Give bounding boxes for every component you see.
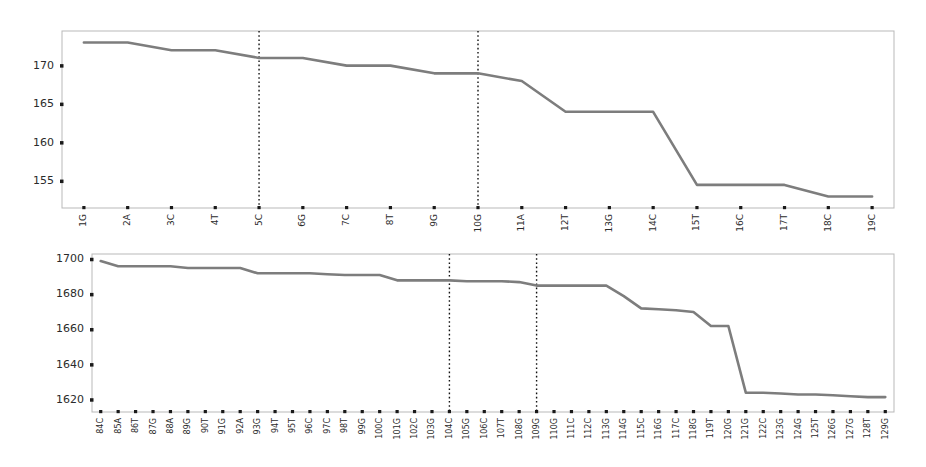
x-tick-label: 106C [480, 418, 489, 439]
y-tick-mark [90, 363, 94, 367]
x-tick-mark [827, 206, 830, 209]
x-tick-label: 91G [218, 418, 227, 434]
x-tick-label: 123G [776, 418, 785, 439]
x-tick-mark [82, 206, 85, 209]
y-tick-mark [60, 64, 64, 68]
x-tick-mark [831, 410, 834, 413]
x-tick-label: 113G [602, 418, 611, 439]
x-tick-label: 7C [341, 214, 351, 226]
x-tick-label: 101G [393, 418, 402, 439]
x-tick-mark [378, 410, 381, 413]
x-tick-mark [301, 206, 304, 209]
x-tick-label: 5C [254, 214, 264, 226]
chart-panel-top: 1551601651701G2A3C4T5C6G7C8T9G10G11A12T1… [0, 0, 926, 234]
x-tick-mark [814, 410, 817, 413]
x-tick-mark [186, 410, 189, 413]
x-tick-label: 125T [811, 418, 820, 438]
y-tick-label: 1660 [56, 322, 84, 335]
x-tick-mark [674, 410, 677, 413]
x-tick-label: 115C [637, 418, 646, 439]
x-tick-mark [99, 410, 102, 413]
y-tick-label: 165 [33, 97, 54, 110]
x-tick-label: 96C [305, 418, 314, 434]
x-tick-mark [783, 206, 786, 209]
x-tick-label: 1G [78, 214, 88, 227]
x-tick-mark [657, 410, 660, 413]
x-tick-mark [552, 410, 555, 413]
x-tick-mark [587, 410, 590, 413]
x-tick-label: 18C [823, 214, 833, 232]
x-tick-label: 111C [567, 418, 576, 439]
x-tick-label: 102C [410, 418, 419, 439]
x-tick-label: 16C [735, 214, 745, 232]
x-tick-label: 89G [183, 418, 192, 434]
x-tick-mark [692, 410, 695, 413]
x-tick-label: 2A [122, 213, 132, 226]
x-tick-label: 121G [741, 418, 750, 439]
x-tick-mark [797, 410, 800, 413]
x-tick-mark [326, 410, 329, 413]
x-tick-mark [343, 410, 346, 413]
x-tick-label: 127G [846, 418, 855, 439]
y-tick-label: 155 [33, 174, 54, 187]
x-tick-mark [134, 410, 137, 413]
x-tick-mark [389, 206, 392, 209]
x-tick-label: 105G [462, 418, 471, 439]
x-tick-label: 94T [271, 418, 280, 433]
y-tick-mark [90, 258, 94, 262]
x-tick-mark [744, 410, 747, 413]
x-tick-mark [608, 206, 611, 209]
x-tick-mark [652, 206, 655, 209]
x-tick-label: 14C [648, 214, 658, 232]
y-tick-mark [60, 141, 64, 145]
x-tick-label: 98T [340, 418, 349, 433]
x-tick-mark [256, 410, 259, 413]
x-tick-mark [500, 410, 503, 413]
x-tick-label: 13G [604, 214, 614, 232]
x-tick-label: 11A [516, 213, 526, 231]
x-tick-mark [170, 206, 173, 209]
x-tick-label: 87G [149, 418, 158, 434]
x-tick-label: 6G [297, 214, 307, 227]
x-tick-label: 92A [236, 417, 245, 433]
x-tick-label: 4T [210, 214, 220, 226]
x-tick-mark [345, 206, 348, 209]
x-tick-mark [169, 410, 172, 413]
x-tick-label: 124G [794, 418, 803, 439]
x-tick-mark [520, 206, 523, 209]
x-tick-mark [605, 410, 608, 413]
plot-frame [92, 254, 894, 412]
bottom-chart-svg: 1620164016601680170084C85A86T87G88A89G90… [0, 234, 926, 467]
y-tick-label: 170 [33, 59, 54, 72]
x-tick-mark [361, 410, 364, 413]
y-tick-label: 160 [33, 136, 54, 149]
x-tick-mark [483, 410, 486, 413]
y-tick-mark [60, 180, 64, 184]
x-tick-label: 116G [654, 418, 663, 439]
x-tick-mark [695, 206, 698, 209]
figure-container: 1551601651701G2A3C4T5C6G7C8T9G10G11A12T1… [0, 0, 926, 467]
x-tick-label: 118G [689, 418, 698, 439]
y-tick-label: 1700 [56, 252, 84, 265]
x-tick-mark [518, 410, 521, 413]
x-tick-label: 117C [672, 418, 681, 439]
x-tick-mark [126, 206, 129, 209]
x-tick-label: 12T [560, 214, 570, 231]
y-tick-mark [60, 103, 64, 107]
y-tick-mark [90, 293, 94, 297]
x-tick-mark [709, 410, 712, 413]
x-tick-label: 15T [691, 214, 701, 231]
x-tick-mark [117, 410, 120, 413]
x-tick-label: 9G [429, 214, 439, 227]
x-tick-label: 86T [131, 418, 140, 433]
x-tick-label: 110G [550, 418, 559, 439]
x-tick-label: 19C [867, 214, 877, 232]
x-tick-mark [204, 410, 207, 413]
x-tick-mark [739, 206, 742, 209]
top-chart-svg: 1551601651701G2A3C4T5C6G7C8T9G10G11A12T1… [0, 0, 926, 234]
x-tick-label: 103G [427, 418, 436, 439]
x-tick-mark [151, 410, 154, 413]
x-tick-label: 90T [201, 418, 210, 433]
x-tick-label: 126G [828, 418, 837, 439]
data-series-line [101, 261, 886, 397]
